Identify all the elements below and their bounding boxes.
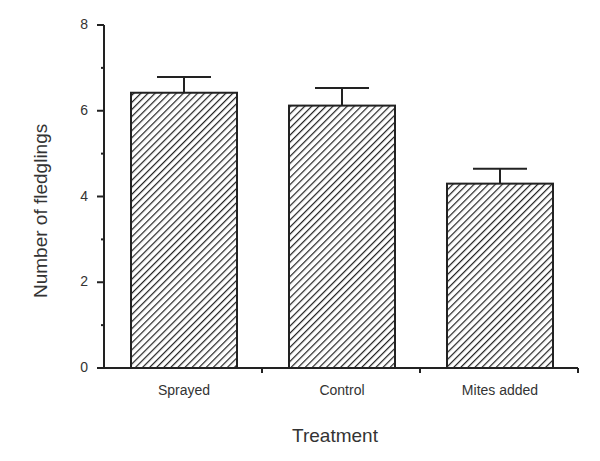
- y-tick-label: 4: [68, 188, 88, 204]
- y-axis-title: Number of fledglings: [30, 124, 52, 298]
- x-label-mites-added: Mites added: [462, 382, 538, 398]
- x-axis-title: Treatment: [292, 425, 378, 447]
- y-tick-label: 8: [68, 16, 88, 32]
- x-label-sprayed: Sprayed: [158, 382, 210, 398]
- y-tick-label: 2: [68, 273, 88, 289]
- bar-sprayed: [131, 93, 237, 368]
- y-tick-label: 0: [68, 359, 88, 375]
- bar-control: [289, 106, 395, 368]
- bar-mites-added: [447, 184, 553, 368]
- x-label-control: Control: [319, 382, 364, 398]
- y-tick-label: 6: [68, 102, 88, 118]
